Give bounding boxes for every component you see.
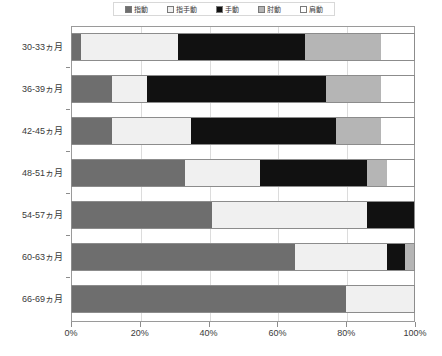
bar-segment: [71, 75, 112, 103]
bar-segment: [346, 285, 415, 313]
bar-segment: [71, 117, 112, 145]
legend-swatch-icon: [167, 6, 174, 13]
legend-swatch-icon: [216, 6, 223, 13]
bar-row: [71, 201, 415, 229]
bar-segment: [387, 159, 415, 187]
legend-swatch-icon: [300, 6, 307, 13]
legend-item[interactable]: 肘動: [258, 6, 281, 13]
y-axis-label: 48-51ヵ月: [22, 159, 63, 187]
y-axis-label: 66-69ヵ月: [22, 285, 63, 313]
x-axis-tick: [346, 322, 347, 327]
y-axis-label: 54-57ヵ月: [22, 201, 63, 229]
bar-segment: [405, 243, 415, 271]
bar-segment: [295, 243, 388, 271]
x-axis-label: 80%: [337, 328, 355, 338]
x-axis-tick: [209, 322, 210, 327]
legend-label: 手動: [225, 6, 239, 13]
bar-segment: [381, 33, 415, 61]
y-axis-tick: [66, 235, 70, 236]
x-axis-tick: [140, 322, 141, 327]
bar-segment: [381, 75, 415, 103]
y-axis-tick: [66, 67, 70, 68]
bar-segment: [112, 75, 146, 103]
y-axis-tick: [66, 151, 70, 152]
bar-segment: [81, 33, 177, 61]
legend-item[interactable]: 指手動: [167, 6, 197, 13]
y-axis-tick: [66, 193, 70, 194]
bar-segment: [71, 159, 185, 187]
legend-swatch-icon: [125, 6, 132, 13]
bar-segment: [71, 33, 81, 61]
y-axis-tick: [66, 109, 70, 110]
bar-row: [71, 159, 415, 187]
x-axis-labels: 0%20%40%60%80%100%: [0, 328, 442, 342]
y-axis-label: 42-45ヵ月: [22, 117, 63, 145]
stacked-bar-chart: 指動指手動手動肘動肩動 30-33ヵ月36-39ヵ月42-45ヵ月48-51ヵ月…: [0, 0, 442, 356]
bar-segment: [71, 285, 346, 313]
bar-segment: [305, 33, 381, 61]
bar-segment: [147, 75, 326, 103]
legend-item[interactable]: 手動: [216, 6, 239, 13]
chart-legend: 指動指手動手動肘動肩動: [113, 2, 335, 16]
x-axis-label: 0%: [64, 328, 77, 338]
bar-segment: [387, 243, 404, 271]
legend-label: 肩動: [309, 6, 323, 13]
legend-label: 肘動: [267, 6, 281, 13]
y-axis-label: 60-63ヵ月: [22, 243, 63, 271]
x-axis-tick: [415, 322, 416, 327]
x-axis-label: 60%: [268, 328, 286, 338]
bar-segment: [336, 117, 381, 145]
legend-item[interactable]: 肩動: [300, 6, 323, 13]
bars-layer: [71, 26, 415, 322]
bar-segment: [381, 117, 415, 145]
legend-swatch-icon: [258, 6, 265, 13]
bar-segment: [191, 117, 335, 145]
legend-label: 指動: [134, 6, 148, 13]
x-axis-tick: [71, 322, 72, 327]
bar-segment: [71, 243, 295, 271]
bar-segment: [212, 201, 367, 229]
bar-row: [71, 117, 415, 145]
bar-segment: [367, 201, 415, 229]
y-axis-label: 36-39ヵ月: [22, 75, 63, 103]
x-axis-tick: [277, 322, 278, 327]
x-axis-label: 40%: [200, 328, 218, 338]
bar-segment: [260, 159, 367, 187]
bar-row: [71, 243, 415, 271]
x-axis-ticks: [71, 322, 415, 327]
bar-row: [71, 75, 415, 103]
bar-segment: [71, 201, 212, 229]
bar-segment: [326, 75, 381, 103]
bar-row: [71, 285, 415, 313]
x-axis-label: 20%: [131, 328, 149, 338]
x-axis-label: 100%: [403, 328, 426, 338]
y-axis-label: 30-33ヵ月: [22, 33, 63, 61]
y-axis-tick: [66, 277, 70, 278]
y-axis-labels: 30-33ヵ月36-39ヵ月42-45ヵ月48-51ヵ月54-57ヵ月60-63…: [0, 26, 69, 322]
bar-segment: [367, 159, 388, 187]
bar-row: [71, 33, 415, 61]
legend-label: 指手動: [176, 6, 197, 13]
bar-segment: [178, 33, 305, 61]
bar-segment: [112, 117, 191, 145]
legend-item[interactable]: 指動: [125, 6, 148, 13]
bar-segment: [185, 159, 261, 187]
